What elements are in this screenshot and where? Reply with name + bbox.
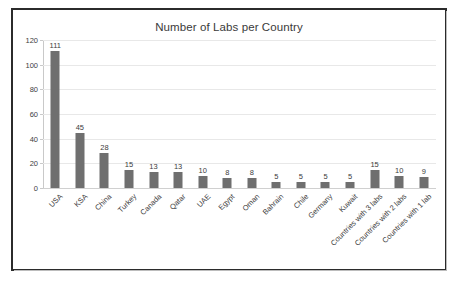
bar-slot: 9 bbox=[411, 40, 436, 188]
bar-value-label: 10 bbox=[198, 166, 206, 175]
bar-slot: 5 bbox=[313, 40, 338, 188]
bar-value-label: 13 bbox=[149, 162, 157, 171]
y-tick-label: 20 bbox=[30, 159, 38, 168]
bar[interactable] bbox=[174, 172, 183, 188]
bar[interactable] bbox=[370, 170, 379, 189]
x-axis-category-labels: USAKSAChinaTurkeyCanadaQatarUAEEgyptOman… bbox=[43, 190, 436, 270]
x-category-label: UAE bbox=[195, 192, 212, 209]
x-category-label: Bahrain bbox=[261, 192, 286, 217]
bar-slot: 10 bbox=[387, 40, 412, 188]
bar-slot: 8 bbox=[215, 40, 240, 188]
bar-slot: 28 bbox=[92, 40, 117, 188]
bar-value-label: 15 bbox=[125, 160, 133, 169]
bar-value-label: 5 bbox=[274, 172, 278, 181]
x-category-label: USA bbox=[47, 192, 64, 209]
bar-slot: 13 bbox=[141, 40, 166, 188]
bar-slot: 15 bbox=[117, 40, 142, 188]
bar[interactable] bbox=[75, 133, 84, 189]
bar-slot: 10 bbox=[190, 40, 215, 188]
bar[interactable] bbox=[124, 170, 133, 189]
bar-value-label: 8 bbox=[250, 168, 254, 177]
bar-value-label: 28 bbox=[100, 143, 108, 152]
x-category-label: Canada bbox=[138, 192, 163, 217]
bar[interactable] bbox=[198, 176, 207, 188]
bar-value-label: 5 bbox=[323, 172, 327, 181]
y-tick-label: 120 bbox=[25, 36, 38, 45]
x-category-label: Turkey bbox=[116, 192, 138, 214]
bar-value-label: 9 bbox=[422, 167, 426, 176]
bar[interactable] bbox=[272, 182, 281, 188]
chart-title: Number of Labs per Country bbox=[13, 21, 445, 33]
bar-slot: 111 bbox=[43, 40, 68, 188]
bar-value-label: 5 bbox=[348, 172, 352, 181]
x-category-label: Oman bbox=[240, 192, 261, 213]
bar-slot: 5 bbox=[264, 40, 289, 188]
bar-slot: 5 bbox=[289, 40, 314, 188]
y-tick-label: 60 bbox=[30, 110, 38, 119]
bar[interactable] bbox=[346, 182, 355, 188]
x-category-label: China bbox=[94, 192, 114, 212]
bar[interactable] bbox=[149, 172, 158, 188]
y-tick-label: 80 bbox=[30, 85, 38, 94]
bar[interactable] bbox=[51, 51, 60, 188]
y-tick-label: 0 bbox=[34, 184, 38, 193]
bar-slot: 15 bbox=[362, 40, 387, 188]
bar[interactable] bbox=[100, 153, 109, 188]
y-tick-label: 100 bbox=[25, 60, 38, 69]
bar[interactable] bbox=[419, 177, 428, 188]
bar[interactable] bbox=[395, 176, 404, 188]
bar[interactable] bbox=[296, 182, 305, 188]
y-tick-mark bbox=[40, 188, 43, 189]
bar-series: 11145281513131088555515109 bbox=[43, 40, 436, 188]
bar-value-label: 45 bbox=[76, 123, 84, 132]
bar-value-label: 15 bbox=[370, 160, 378, 169]
bar-value-label: 5 bbox=[299, 172, 303, 181]
x-category-label: Qatar bbox=[168, 192, 188, 212]
x-category-label: Kuwait bbox=[337, 192, 359, 214]
bar-slot: 5 bbox=[338, 40, 363, 188]
y-tick-label: 40 bbox=[30, 134, 38, 143]
bar[interactable] bbox=[223, 178, 232, 188]
chart-frame: Number of Labs per Country 0204060801001… bbox=[11, 8, 447, 271]
plot-area: 020406080100120 111452815131310885555151… bbox=[43, 40, 436, 188]
x-category-label: Chile bbox=[292, 192, 310, 210]
bar[interactable] bbox=[247, 178, 256, 188]
x-category-label: KSA bbox=[72, 192, 89, 209]
bar-value-label: 13 bbox=[174, 162, 182, 171]
bar-slot: 8 bbox=[240, 40, 265, 188]
x-category-label: Germany bbox=[307, 192, 335, 220]
bar-value-label: 10 bbox=[395, 166, 403, 175]
bar-value-label: 8 bbox=[225, 168, 229, 177]
bar[interactable] bbox=[321, 182, 330, 188]
x-category-label: Egypt bbox=[217, 192, 237, 212]
bar-slot: 13 bbox=[166, 40, 191, 188]
bar-slot: 45 bbox=[68, 40, 93, 188]
bar-value-label: 111 bbox=[50, 41, 61, 50]
gridline bbox=[43, 188, 436, 189]
